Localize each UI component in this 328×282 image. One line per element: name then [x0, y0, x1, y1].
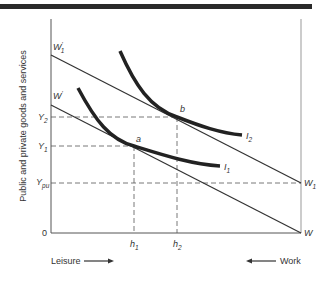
origin-label: 0 [42, 228, 47, 238]
work-label: Work [280, 256, 301, 266]
y-axis-label: Public and private goods and services [18, 50, 28, 202]
label-w-prime: W' [53, 90, 64, 101]
label-h2: h2 [173, 239, 182, 251]
label-w1-prime: W'1 [53, 41, 65, 54]
label-ypu: Ypu [36, 177, 50, 190]
label-y1: Y1 [38, 141, 48, 153]
label-h1: h1 [130, 239, 139, 251]
indifference-curve-i2 [120, 51, 242, 135]
point-a-label: a [136, 134, 141, 144]
labor-leisure-diagram: W'1 W' Y2 Y1 Ypu 0 a b I1 I2 W1 W h1 h2 … [0, 0, 328, 282]
label-i2: I2 [246, 131, 253, 143]
work-arrow-icon [246, 259, 276, 264]
label-i1: I1 [224, 162, 231, 174]
budget-line-w-prime [51, 105, 301, 233]
top-rule [0, 4, 312, 9]
label-w1: W1 [304, 178, 317, 190]
label-y2: Y2 [38, 112, 48, 124]
leisure-arrow-icon [84, 259, 114, 264]
budget-line-w1-prime [51, 55, 301, 183]
label-w: W [304, 228, 314, 238]
point-b-label: b [180, 104, 185, 114]
leisure-label: Leisure [51, 256, 81, 266]
